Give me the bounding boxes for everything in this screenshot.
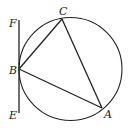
label-f: F bbox=[8, 17, 17, 30]
label-b: B bbox=[8, 64, 17, 77]
label-c: C bbox=[59, 5, 68, 18]
label-e: E bbox=[8, 109, 17, 122]
label-a: A bbox=[103, 108, 112, 121]
segment-ca bbox=[62, 19, 102, 108]
geometry-diagram: F B E C A bbox=[0, 0, 139, 129]
circle bbox=[19, 18, 122, 121]
